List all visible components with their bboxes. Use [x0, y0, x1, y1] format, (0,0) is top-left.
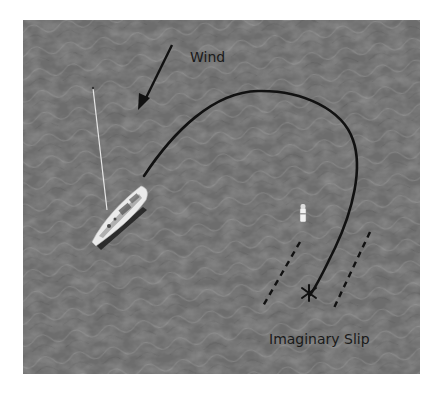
- water-canvas: [23, 20, 420, 374]
- wind-label: Wind: [190, 49, 225, 65]
- mooring-buoy-icon: [300, 204, 306, 222]
- imaginary-slip-label: Imaginary Slip: [269, 331, 370, 347]
- diagram-scene: Wind Imaginary Slip: [23, 20, 420, 374]
